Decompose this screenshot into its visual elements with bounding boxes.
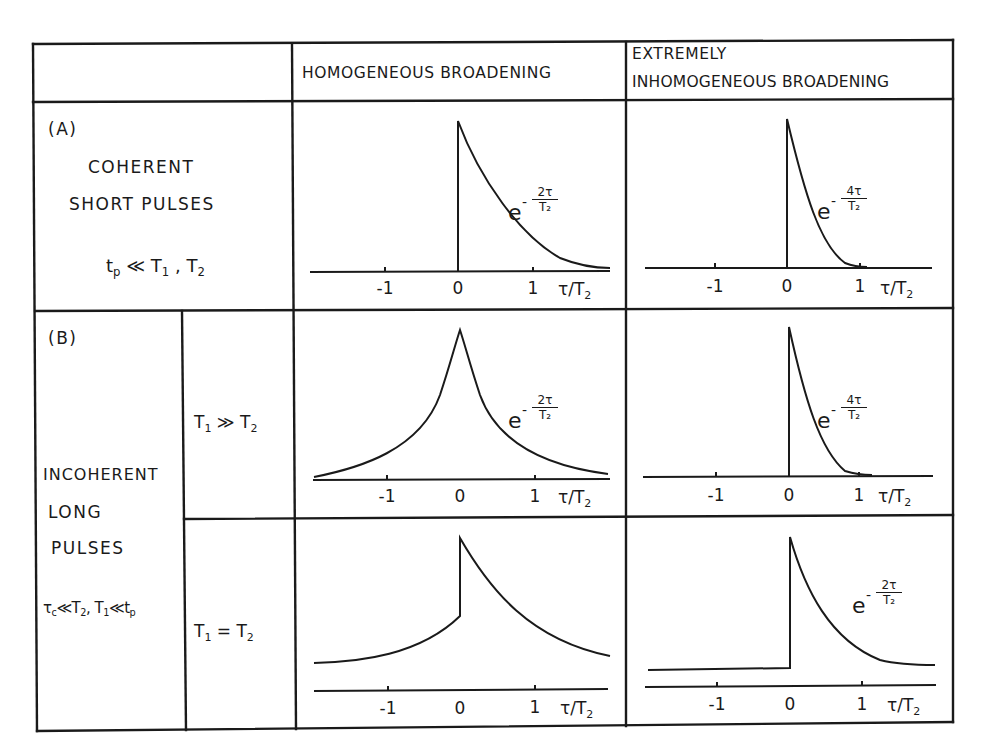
tick-1: 1 xyxy=(530,488,541,505)
row-b2-condition: T1 = T2 xyxy=(194,621,254,641)
table-grid-and-plots xyxy=(0,0,985,753)
tick-minus1: -1 xyxy=(377,280,394,297)
tick-1: 1 xyxy=(854,487,865,504)
header-homogeneous-broadening: HOMOGENEOUS BROADENING xyxy=(302,66,552,82)
row-a-coherent: COHERENT xyxy=(88,159,194,176)
tick-1: 1 xyxy=(855,278,866,295)
tick-0: 0 xyxy=(784,487,795,504)
row-b1-condition: T1 ≫ T2 xyxy=(194,412,257,432)
tick-0: 0 xyxy=(455,700,466,717)
tick-0: 0 xyxy=(455,488,466,505)
row-a-tag: (A) xyxy=(48,121,77,138)
tick-1: 1 xyxy=(857,696,868,713)
plot-b2-homogeneous xyxy=(314,538,610,691)
tick-minus1: -1 xyxy=(379,488,396,505)
plot-a-homogeneous xyxy=(310,121,610,272)
axis-label: τ/T2 xyxy=(558,281,591,298)
plot-b1-homogeneous xyxy=(313,330,610,480)
axis-label: τ/T2 xyxy=(878,488,911,505)
row-b-condition: τc≪T2, T1≪tp xyxy=(43,599,135,617)
header-inhomogeneous-broadening: INHOMOGENEOUS BROADENING xyxy=(632,75,889,91)
tick-minus1: -1 xyxy=(380,700,397,717)
row-a-short-pulses: SHORT PULSES xyxy=(69,196,215,213)
axis-label: τ/T2 xyxy=(560,700,593,717)
tick-minus1: -1 xyxy=(707,278,724,295)
plot-b2-inhomogeneous xyxy=(645,537,936,687)
axis-label: τ/T2 xyxy=(887,697,920,714)
row-b-incoherent: INCOHERENT xyxy=(43,467,159,483)
tick-0: 0 xyxy=(782,278,793,295)
plot-a-inhomogeneous xyxy=(645,119,932,268)
axis-label: τ/T2 xyxy=(880,280,913,297)
broadening-comparison-table: HOMOGENEOUS BROADENING EXTREMELY INHOMOG… xyxy=(0,0,985,753)
row-b-pulses: PULSES xyxy=(51,540,125,557)
tick-1: 1 xyxy=(528,280,539,297)
row-b-long: LONG xyxy=(48,504,102,521)
row-b-tag: (B) xyxy=(48,330,77,347)
axis-label: τ/T2 xyxy=(558,489,591,506)
tick-0: 0 xyxy=(453,280,464,297)
tick-0: 0 xyxy=(785,696,796,713)
tick-minus1: -1 xyxy=(708,487,725,504)
plot-b1-inhomogeneous xyxy=(643,327,933,477)
tick-minus1: -1 xyxy=(709,696,726,713)
header-extremely: EXTREMELY xyxy=(632,47,727,63)
tick-1: 1 xyxy=(530,699,541,716)
row-a-condition: tp ≪ T1 , T2 xyxy=(106,255,205,276)
